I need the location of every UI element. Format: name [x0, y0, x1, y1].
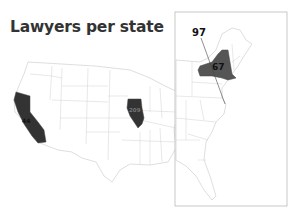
us-main-map: 44 209: [14, 62, 182, 182]
map-canvas: 44 209 67 97: [0, 0, 293, 214]
label-new-york: 67: [212, 62, 225, 72]
label-illinois: 209: [129, 107, 141, 113]
label-dc: 97: [192, 27, 206, 38]
us-outline: [14, 62, 182, 182]
label-california: 44: [22, 117, 30, 124]
